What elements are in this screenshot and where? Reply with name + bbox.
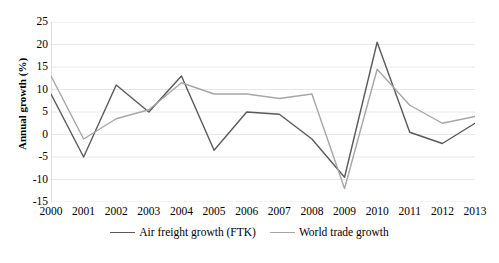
y-tick-label-neg5: -5 xyxy=(22,151,48,163)
legend-line-swatch-icon xyxy=(110,232,135,233)
chart-legend: Air freight growth (FTK)World trade grow… xyxy=(0,226,499,238)
y-axis-tick-labels: 2520151050-5-10-15 xyxy=(20,0,48,263)
x-tick-label-2013: 2013 xyxy=(455,204,495,218)
y-tick-label-10: 10 xyxy=(22,84,48,96)
y-tick-label-25: 25 xyxy=(22,16,48,28)
gridlines xyxy=(51,22,475,202)
legend-item-label: Air freight growth (FTK) xyxy=(139,226,256,238)
x-axis-tick-labels: 2000200120022003200420052006200720082009… xyxy=(51,204,475,222)
plot-area xyxy=(51,22,475,202)
legend-item-air-freight-growth[interactable]: Air freight growth (FTK) xyxy=(110,226,256,238)
y-tick-label-neg10: -10 xyxy=(22,174,48,186)
legend-item-label: World trade growth xyxy=(299,226,389,238)
series-lines xyxy=(51,42,475,188)
legend-item-world-trade-growth[interactable]: World trade growth xyxy=(270,226,389,238)
y-tick-label-0: 0 xyxy=(22,129,48,141)
y-tick-label-5: 5 xyxy=(22,106,48,118)
legend-line-swatch-icon xyxy=(270,232,295,233)
y-tick-label-15: 15 xyxy=(22,61,48,73)
y-tick-label-20: 20 xyxy=(22,39,48,51)
line-chart: Annual growth (%) 2520151050-5-10-15 200… xyxy=(0,0,499,263)
